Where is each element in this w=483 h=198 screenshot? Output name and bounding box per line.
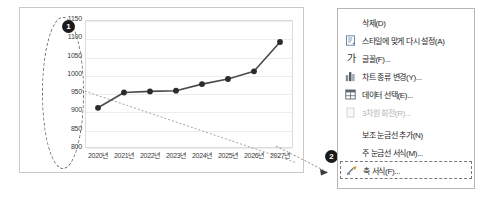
menu-item-font[interactable]: 가 글꼴(F)...: [338, 49, 474, 67]
x-axis-tick: 2023년: [166, 151, 186, 160]
gridline: [86, 148, 292, 149]
menu-item-rotate-3d: 3차원 회전(R)...: [338, 103, 474, 121]
y-axis-tick: 800: [48, 143, 82, 151]
y-axis-tick: 1100: [48, 33, 82, 41]
menu-item-delete[interactable]: 삭제(D): [338, 13, 474, 31]
y-axis-tick: 850: [48, 125, 82, 133]
menu-item-add-minor-gridlines[interactable]: 보조 눈금선 추가(N): [338, 125, 474, 143]
menu-item-label: 축 서식(F)...: [363, 165, 400, 176]
y-axis-tick: 1050: [48, 52, 82, 60]
data-point: [251, 68, 257, 74]
callout-badge-1: 1: [62, 20, 75, 33]
menu-item-format-major-gridlines[interactable]: 주 눈금선 서식(M)...: [338, 143, 474, 161]
screenshot-root: 800 850 900 950 1000 1050 1100 1150: [0, 0, 483, 198]
menu-item-label: 주 눈금선 서식(M)...: [362, 147, 423, 158]
x-axis-tick: 2021년: [114, 151, 134, 160]
x-axis-tick: 2025년: [218, 151, 238, 160]
x-axis-tick: 2020년: [88, 151, 108, 160]
no-icon: [342, 127, 359, 142]
bar-chart-icon: [342, 69, 359, 84]
svg-text:가: 가: [346, 53, 355, 64]
no-icon: [342, 145, 359, 160]
menu-item-label: 글꼴(F)...: [362, 53, 390, 64]
chart-context-menu[interactable]: 삭제(D) 스타일에 맞게 다시 설정(A) 가 글꼴(F)...: [337, 8, 475, 189]
data-point: [121, 90, 127, 96]
menu-item-label: 3차원 회전(R)...: [362, 107, 411, 118]
menu-item-reset-to-style[interactable]: 스타일에 맞게 다시 설정(A): [338, 31, 474, 49]
data-point: [225, 76, 231, 82]
y-axis-tick: 950: [48, 88, 82, 96]
data-point: [147, 89, 153, 95]
rotate-3d-icon: [342, 105, 359, 120]
x-axis-tick: 2027년: [270, 151, 290, 160]
value-axis[interactable]: 800 850 900 950 1000 1050 1100 1150: [42, 20, 82, 148]
x-axis-tick: 2022년: [140, 151, 160, 160]
data-point: [173, 88, 179, 94]
series-line: [98, 42, 280, 108]
data-point: [277, 39, 283, 45]
series-markers: [95, 39, 283, 111]
data-point: [199, 81, 205, 87]
x-axis-tick: 2026년: [244, 151, 264, 160]
menu-item-select-data[interactable]: 데이터 선택(E)...: [338, 85, 474, 103]
no-icon: [342, 15, 359, 30]
chart-panel[interactable]: 800 850 900 950 1000 1050 1100 1150: [19, 7, 304, 173]
format-axis-icon: [343, 163, 360, 178]
chart-series-layer: [85, 20, 293, 148]
menu-item-label: 스타일에 맞게 다시 설정(A): [362, 35, 445, 46]
y-axis-tick: 1000: [48, 70, 82, 78]
menu-item-label: 데이터 선택(E)...: [362, 89, 413, 100]
menu-item-label: 보조 눈금선 추가(N): [362, 129, 423, 140]
menu-item-label: 삭제(D): [362, 17, 386, 28]
data-point: [95, 105, 101, 111]
menu-item-change-chart-type[interactable]: 차트 종류 변경(Y)...: [338, 67, 474, 85]
category-axis[interactable]: 2020년 2021년 2022년 2023년 2024년 2025년 2026…: [85, 151, 293, 167]
menu-item-label: 차트 종류 변경(Y)...: [362, 71, 422, 82]
table-icon: [342, 87, 359, 102]
reset-icon: [342, 33, 359, 48]
x-axis-tick: 2024년: [192, 151, 212, 160]
font-icon: 가: [342, 51, 359, 66]
y-axis-tick: 900: [48, 106, 82, 114]
menu-item-format-axis[interactable]: 축 서식(F)...: [340, 161, 472, 179]
